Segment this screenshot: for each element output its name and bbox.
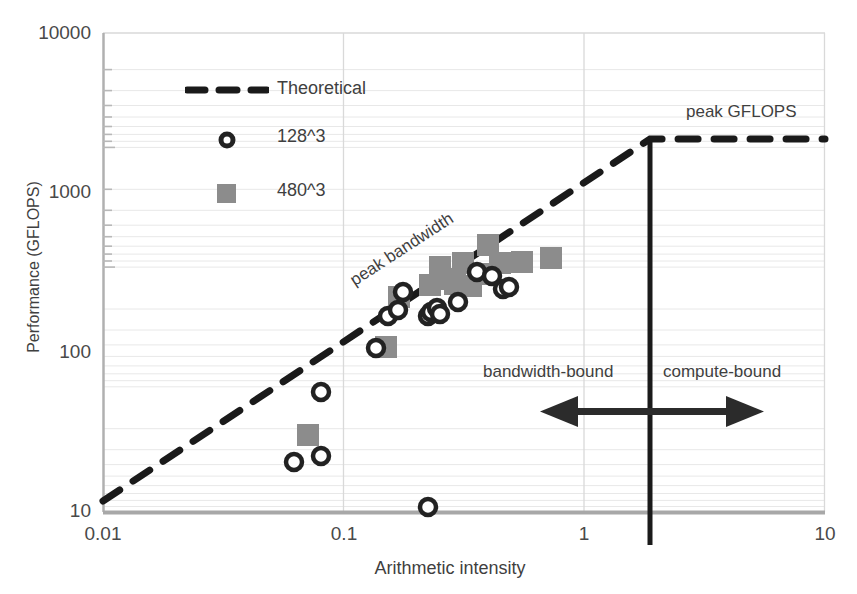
y-axis-ticks xyxy=(103,70,115,268)
dashed-line-key xyxy=(185,68,269,116)
y-tick-1000: 1000 xyxy=(0,181,91,203)
x-tick-0-1: 0.1 xyxy=(304,523,384,545)
filled-square-key xyxy=(185,170,269,218)
x-tick-10: 10 xyxy=(785,523,857,545)
legend-item-480: 480^3 xyxy=(185,170,435,224)
x-tick-1: 1 xyxy=(544,523,624,545)
series-480-markers xyxy=(297,234,562,446)
x-axis-title: Arithmetic intensity xyxy=(300,558,600,579)
legend-label-480: 480^3 xyxy=(277,180,326,201)
x-tick-0-01: 0.01 xyxy=(63,523,143,545)
series-128-markers xyxy=(286,264,517,515)
legend-item-theoretical: Theoretical xyxy=(185,68,435,116)
open-circle-key xyxy=(185,116,269,164)
legend-label-128: 128^3 xyxy=(277,126,326,147)
annotation-compute-bound: compute-bound xyxy=(663,362,781,382)
legend-label-theoretical: Theoretical xyxy=(277,78,366,99)
chart-legend: Theoretical 128^3 480^3 xyxy=(185,68,435,224)
y-tick-10: 10 xyxy=(0,500,91,522)
y-tick-10000: 10000 xyxy=(0,22,91,44)
legend-item-128: 128^3 xyxy=(185,116,435,170)
y-tick-100: 100 xyxy=(0,341,91,363)
roofline-chart: 10000 1000 100 10 0.01 0.1 1 10 Arithmet… xyxy=(0,0,857,594)
annotation-bandwidth-bound: bandwidth-bound xyxy=(483,362,613,382)
annotation-peak-gflops: peak GFLOPS xyxy=(686,102,797,122)
y-axis-title: Performance (GFLOPS) xyxy=(25,137,43,397)
